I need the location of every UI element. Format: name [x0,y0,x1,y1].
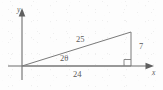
hypotenuse-length-label: 25 [76,35,85,44]
angle-label: 2θ [60,54,69,63]
right-angle-marker-icon [124,60,131,67]
x-axis-label: x [152,69,155,77]
y-axis-label: y [17,6,20,14]
adjacent-length-label: 24 [73,70,82,79]
geometry-figure: 25 2θ 24 7 y x [0,0,163,90]
opposite-length-label: 7 [139,42,143,51]
